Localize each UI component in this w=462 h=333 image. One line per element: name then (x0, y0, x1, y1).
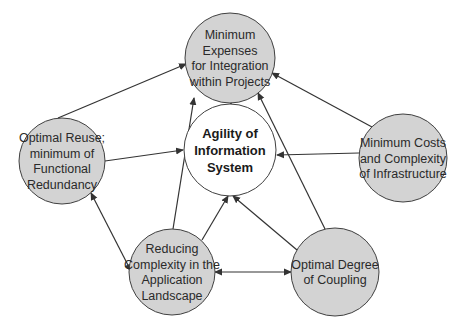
node-label-line: Complexity in the (124, 258, 220, 272)
node-label-line: Optimal Degree (291, 258, 379, 272)
node-infrastructure: Minimum Costsand Complexityof Infrastruc… (359, 114, 447, 202)
node-circle-coupling (291, 228, 379, 316)
node-complexity: ReducingComplexity in theApplicationLand… (124, 229, 220, 315)
nodes-group: MinimumExpensesfor Integrationwithin Pro… (19, 13, 447, 316)
node-label-line: Minimum Costs (360, 136, 446, 150)
node-label-line: Expenses (203, 44, 258, 58)
node-coupling: Optimal Degreeof Coupling (291, 228, 379, 316)
edge-complexity-to-agility (202, 196, 228, 240)
node-label-line: and Complexity (360, 152, 447, 166)
node-label-line: of Infrastructure (359, 167, 447, 181)
edge-reuse-to-agility (105, 150, 183, 161)
node-label-line: System (207, 160, 253, 175)
node-label-line: Application (141, 273, 202, 287)
node-label-line: Functional (33, 162, 91, 176)
diagram-canvas: MinimumExpensesfor Integrationwithin Pro… (0, 0, 462, 333)
edge-infrastructure-to-integration (272, 73, 372, 127)
node-label-line: Optimal Reuse; (19, 131, 105, 145)
node-label-line: Landscape (141, 289, 202, 303)
node-integration: MinimumExpensesfor Integrationwithin Pro… (185, 13, 275, 103)
edge-reuse-to-integration (58, 64, 186, 118)
node-label-line: minimum of (30, 147, 95, 161)
node-label-line: Reducing (146, 242, 199, 256)
node-agility: Agility ofInformationSystem (184, 104, 276, 196)
node-reuse: Optimal Reuse;minimum ofFunctionalRedund… (19, 118, 105, 204)
node-label-line: Information (194, 143, 266, 158)
node-label-line: within Projects (189, 75, 271, 89)
node-label-line: Redundancy (27, 178, 98, 192)
node-label-line: Minimum (205, 28, 256, 42)
node-label-line: Agility of (202, 126, 258, 141)
node-label-line: of Coupling (303, 273, 366, 287)
node-label-line: for Integration (191, 59, 268, 73)
node-circle-integration (185, 13, 275, 103)
edge-coupling-to-agility (233, 196, 297, 250)
edge-infrastructure-to-agility (277, 153, 359, 155)
